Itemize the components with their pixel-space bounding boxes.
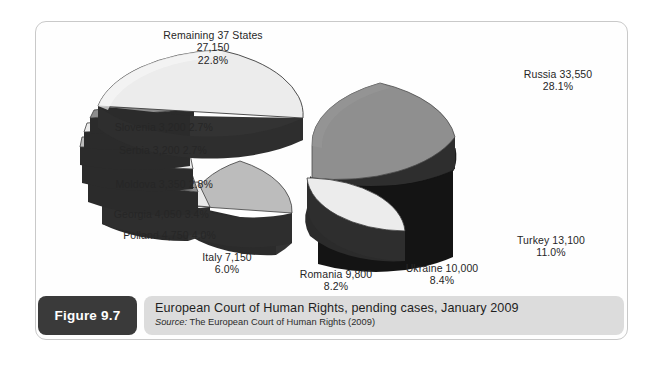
slice-label-moldova: Moldova 3,350 2.8% <box>56 178 213 190</box>
figure-caption-source: Source: The European Court of Human Righ… <box>155 317 624 328</box>
slice-label-italy: Italy 7,150 6.0% <box>175 251 279 276</box>
slice-label-slovenia: Slovenia 3,200 2.7% <box>56 121 213 133</box>
slice-label-ukraine: Ukraine 10,000 8.4% <box>384 262 500 287</box>
slice-label-remaining-name: Remaining 37 States <box>118 29 308 41</box>
slice-label-remaining-percent: 22.8% <box>118 54 308 66</box>
slice-label-russia-percent: 28.1% <box>494 80 622 92</box>
slice-label-romania: Romania 9,800 8.2% <box>278 268 394 293</box>
slice-label-georgia: Georgia 4,050 3.4% <box>56 208 209 220</box>
slice-label-romania-percent: 8.2% <box>278 280 394 292</box>
slice-label-turkey-name: Turkey 13,100 <box>490 234 612 246</box>
slice-label-polland: Polland 4,750 4.0% <box>56 229 216 241</box>
figure-caption-bar: Figure 9.7 European Court of Human Right… <box>38 296 624 335</box>
figure-number-badge: Figure 9.7 <box>38 296 137 335</box>
pie-slice-russia[interactable] <box>312 83 455 186</box>
slice-label-ukraine-name: Ukraine 10,000 <box>384 262 500 274</box>
slice-label-russia-name: Russia 33,550 <box>494 68 622 80</box>
slice-label-serbia: Serbia 3,200 2.7% <box>56 144 207 156</box>
slice-label-italy-percent: 6.0% <box>175 263 279 275</box>
slice-label-romania-name: Romania 9,800 <box>278 268 394 280</box>
slice-label-turkey-percent: 11.0% <box>490 246 612 258</box>
slice-label-turkey: Turkey 13,100 11.0% <box>490 234 612 259</box>
figure-source-prefix: Source: <box>155 317 187 327</box>
slice-label-italy-name: Italy 7,150 <box>175 251 279 263</box>
figure-caption-panel: European Court of Human Rights, pending … <box>144 296 624 335</box>
pie-slice-remaining[interactable] <box>98 50 303 159</box>
slice-label-remaining-value: 27,150 <box>118 41 308 53</box>
figure-source-text: The European Court of Human Rights (2009… <box>187 317 375 327</box>
slice-label-ukraine-percent: 8.4% <box>384 274 500 286</box>
slice-label-russia: Russia 33,550 28.1% <box>494 68 622 93</box>
pie-chart-graphic <box>60 28 540 290</box>
figure-caption-title: European Court of Human Rights, pending … <box>155 301 624 316</box>
slice-label-remaining: Remaining 37 States 27,150 22.8% <box>118 29 308 66</box>
